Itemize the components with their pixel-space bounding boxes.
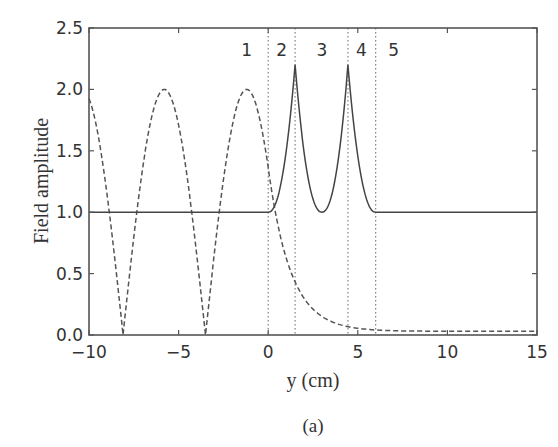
- y-axis-title: Field amplitude: [30, 118, 53, 244]
- solid-series-line: [89, 65, 537, 212]
- x-tick-label: 5: [352, 342, 363, 362]
- figure-caption: (a): [302, 415, 323, 437]
- series-group: [89, 65, 537, 335]
- x-tick-label: −5: [166, 342, 191, 362]
- region-label: 3: [317, 40, 328, 60]
- region-label: 5: [388, 40, 399, 60]
- x-tick-label: 15: [526, 342, 548, 362]
- y-tick-label: 2.5: [56, 18, 83, 38]
- axes-frame: [89, 28, 537, 335]
- x-tick-label: 0: [263, 342, 274, 362]
- chart-canvas: −10−50510150.00.51.01.52.02.5 12345 y (c…: [0, 0, 558, 447]
- x-axis-title: y (cm): [287, 369, 340, 392]
- y-tick-label: 1.0: [56, 202, 83, 222]
- region-label: 2: [276, 40, 287, 60]
- y-tick-label: 0.5: [56, 264, 83, 284]
- x-tick-label: −10: [71, 342, 107, 362]
- ticks-group: −10−50510150.00.51.01.52.02.5: [56, 18, 548, 362]
- y-tick-label: 1.5: [56, 141, 83, 161]
- region-label: 1: [241, 40, 252, 60]
- y-tick-label: 2.0: [56, 79, 83, 99]
- y-tick-label: 0.0: [56, 325, 83, 345]
- region-label: 4: [356, 40, 367, 60]
- x-tick-label: 10: [437, 342, 459, 362]
- region-dividers: [268, 28, 376, 335]
